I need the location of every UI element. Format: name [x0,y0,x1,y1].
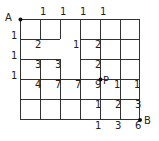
vertex-count: 2 [35,40,41,50]
point-b-label: B [144,116,151,126]
vertex-count: 1 [95,100,101,110]
point-a-dot [19,18,23,22]
vertex-count: 1 [95,121,101,131]
vertex-count: 1 [11,71,17,81]
vertex-count: 3 [35,60,41,70]
vertex-count: 1 [134,80,140,90]
vertex-count: 7 [55,80,61,90]
point-p-label: P [103,76,109,86]
vertex-count: 1 [11,31,17,41]
vertex-count: 2 [95,60,101,70]
vertex-count: 1 [73,40,79,50]
vertex-count: 3 [135,100,141,110]
vertex-count: 6 [135,121,141,131]
point-a-label: A [5,13,12,23]
vertex-count: 7 [75,80,81,90]
vertex-count: 1 [60,7,66,17]
vertex-count: 3 [55,60,61,70]
vertex-count: 1 [114,80,120,90]
vertex-count: 3 [115,121,121,131]
vertex-count: 1 [100,7,106,17]
vertex-count: 1 [40,7,46,17]
vertex-count: 2 [115,100,121,110]
vertex-count: 9 [95,80,101,90]
vertex-count: 1 [80,7,86,17]
vertex-count: 1 [11,51,17,61]
vertex-count: 4 [35,80,41,90]
vertex-count: 2 [95,40,101,50]
